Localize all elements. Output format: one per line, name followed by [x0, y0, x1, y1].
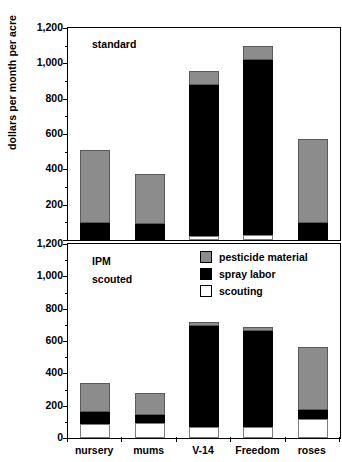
legend: pesticide material spray labor scouting	[200, 249, 308, 300]
y-major-tick	[63, 373, 68, 374]
x-tick-label-mums: mums	[133, 444, 164, 456]
legend-label-spray-labor: spray labor	[219, 268, 276, 280]
y-major-tick	[63, 63, 68, 64]
panel-standard: standard	[67, 27, 341, 241]
y-major-tick	[63, 28, 68, 29]
y-tick-label: 0	[5, 431, 63, 443]
bar-segment-spray-labor	[189, 85, 219, 237]
bar-segment-spray-labor	[135, 415, 165, 424]
y-major-tick	[63, 169, 68, 170]
bar-segment-pesticide-material	[135, 174, 165, 224]
y-major-tick	[63, 406, 68, 407]
bar-segment-spray-labor	[243, 60, 273, 235]
y-major-tick	[63, 276, 68, 277]
bar-segment-spray-labor	[243, 331, 273, 426]
bar-mums	[135, 28, 165, 240]
panel-ipm-scouted: IPM scouted pesticide material spray lab…	[67, 243, 341, 439]
plot-area-standard	[68, 28, 340, 240]
y-major-tick	[63, 99, 68, 100]
x-tick	[339, 437, 340, 442]
y-tick-label: 600	[5, 127, 63, 139]
y-tick-label: 1,200	[5, 21, 63, 33]
bar-segment-pesticide-material	[189, 71, 219, 84]
bar-segment-scouting	[189, 236, 219, 240]
x-tick-label-freedom: Freedom	[235, 444, 279, 456]
bar-segment-spray-labor	[189, 326, 219, 426]
bar-segment-spray-labor	[80, 412, 110, 424]
legend-item-spray-labor: spray labor	[200, 266, 308, 281]
bar-mums	[135, 244, 165, 438]
y-major-tick	[63, 244, 68, 245]
bar-segment-spray-labor	[298, 410, 328, 420]
bar-segment-scouting	[298, 419, 328, 438]
bar-segment-pesticide-material	[189, 322, 219, 327]
y-minor-tick	[65, 390, 68, 391]
x-axis-ticks	[67, 437, 339, 443]
x-tick	[176, 437, 177, 442]
x-tick-label-roses: roses	[298, 444, 326, 456]
y-tick-label: 200	[5, 399, 63, 411]
legend-label-pesticide-material: pesticide material	[219, 251, 308, 263]
y-minor-tick	[65, 116, 68, 117]
legend-item-scouting: scouting	[200, 283, 308, 298]
y-minor-tick	[65, 325, 68, 326]
y-tick-label: 1,200	[5, 237, 63, 249]
bar-segment-pesticide-material	[80, 150, 110, 223]
x-tick-label-nursery: nursery	[75, 444, 114, 456]
panel-annotation-scouted: scouted	[92, 273, 132, 285]
legend-item-pesticide-material: pesticide material	[200, 249, 308, 264]
x-tick	[67, 437, 68, 442]
x-axis-tick-labels: nurserymumsV-14Freedomroses	[67, 444, 339, 460]
y-tick-label: 600	[5, 334, 63, 346]
bar-freedom	[243, 28, 273, 240]
y-tick-label: 400	[5, 162, 63, 174]
y-major-tick	[63, 309, 68, 310]
y-tick-label: 800	[5, 302, 63, 314]
bar-segment-pesticide-material	[298, 347, 328, 409]
y-minor-tick	[65, 152, 68, 153]
y-minor-tick	[65, 187, 68, 188]
stacked-bar-chart-figure: dollars per month per acre 2004006008001…	[0, 0, 342, 462]
bar-segment-scouting	[80, 424, 110, 438]
y-minor-tick	[65, 260, 68, 261]
y-major-tick	[63, 205, 68, 206]
y-tick-label: 1,000	[5, 269, 63, 281]
bar-roses	[298, 28, 328, 240]
x-tick	[121, 437, 122, 442]
y-tick-label: 800	[5, 92, 63, 104]
bar-segment-scouting	[243, 235, 273, 240]
y-tick-label: 200	[5, 198, 63, 210]
y-axis-tick-labels: 2004006008001,0001,20002004006008001,000…	[0, 0, 63, 462]
y-major-tick	[63, 341, 68, 342]
bar-segment-pesticide-material	[243, 46, 273, 60]
panel-annotation-standard: standard	[92, 38, 136, 50]
bar-nursery	[80, 28, 110, 240]
y-major-tick	[63, 134, 68, 135]
legend-swatch-scouting	[200, 285, 212, 297]
y-tick-label: 400	[5, 366, 63, 378]
y-minor-tick	[65, 422, 68, 423]
y-major-tick	[63, 240, 68, 241]
x-tick	[285, 437, 286, 442]
bar-v-14	[189, 28, 219, 240]
y-minor-tick	[65, 293, 68, 294]
bar-segment-spray-labor	[80, 223, 110, 240]
x-tick	[230, 437, 231, 442]
y-minor-tick	[65, 357, 68, 358]
y-minor-tick	[65, 81, 68, 82]
y-minor-tick	[65, 222, 68, 223]
bar-segment-scouting	[135, 423, 165, 438]
legend-label-scouting: scouting	[219, 285, 263, 297]
bar-segment-pesticide-material	[298, 139, 328, 223]
panel-annotation-ipm: IPM	[92, 255, 111, 267]
y-minor-tick	[65, 46, 68, 47]
bar-segment-pesticide-material	[135, 393, 165, 415]
x-tick-label-v-14: V-14	[192, 444, 214, 456]
legend-swatch-spray-labor	[200, 268, 212, 280]
legend-swatch-pesticide-material	[200, 251, 212, 263]
bar-segment-spray-labor	[135, 224, 165, 240]
bar-segment-spray-labor	[298, 223, 328, 240]
bar-segment-pesticide-material	[80, 383, 110, 412]
y-tick-label: 1,000	[5, 56, 63, 68]
bar-segment-pesticide-material	[243, 327, 273, 331]
